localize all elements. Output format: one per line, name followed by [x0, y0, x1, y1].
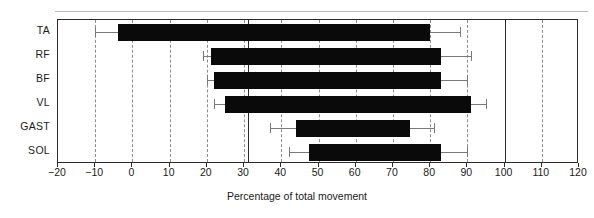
error-bar-end: [471, 104, 486, 105]
x-tick-label-110: 110: [521, 166, 561, 178]
gridline-50: [319, 20, 320, 162]
error-cap-start: [289, 147, 290, 157]
x-tick-mark-110: [541, 163, 542, 167]
bar-vl: [225, 96, 471, 113]
bar-sol: [309, 144, 441, 161]
error-cap-end: [486, 99, 487, 109]
y-axis-label-bf: BF: [2, 72, 50, 84]
error-bar-start: [214, 104, 225, 105]
x-tick-label-30: 30: [223, 166, 263, 178]
gridline-90: [467, 20, 468, 162]
x-tick-label-10: 10: [149, 166, 189, 178]
x-tick-label-120: 120: [558, 166, 594, 178]
error-bar-start: [270, 128, 296, 129]
x-tick-mark-90: [466, 163, 467, 167]
error-bar-end: [441, 152, 467, 153]
x-tick-mark--10: [94, 163, 95, 167]
gridline-10: [170, 20, 171, 162]
x-tick-mark-80: [429, 163, 430, 167]
x-tick-label-20: 20: [186, 166, 226, 178]
bar-bf: [214, 72, 441, 89]
x-tick-mark-120: [578, 163, 579, 167]
x-tick-label-40: 40: [260, 166, 300, 178]
x-tick-label-80: 80: [409, 166, 449, 178]
y-axis-label-vl: VL: [2, 96, 50, 108]
x-tick-label-70: 70: [372, 166, 412, 178]
y-axis-label-rf: RF: [2, 48, 50, 60]
gridline-20: [207, 20, 208, 162]
x-tick-label-0: 0: [111, 166, 151, 178]
plot-area: [57, 19, 578, 163]
bar-chart: TARFBFVLGASTSOL −20−10010203040506070809…: [0, 0, 594, 218]
y-axis-label-sol: SOL: [2, 144, 50, 156]
gridline-30: [244, 20, 245, 162]
error-bar-start: [289, 152, 309, 153]
bar-gast: [296, 120, 410, 137]
error-cap-start: [207, 75, 208, 85]
reference-line-31: [248, 20, 249, 162]
error-cap-end: [467, 147, 468, 157]
error-cap-end: [460, 27, 461, 37]
error-bar-end: [410, 128, 434, 129]
gridline-0: [132, 20, 133, 162]
error-bar-start: [207, 80, 214, 81]
error-cap-start: [95, 27, 96, 37]
y-axis-label-gast: GAST: [2, 120, 50, 132]
error-cap-end: [471, 51, 472, 61]
x-tick-mark-10: [169, 163, 170, 167]
error-cap-start: [203, 51, 204, 61]
reference-line-100: [505, 20, 506, 162]
x-tick-label-50: 50: [298, 166, 338, 178]
x-tick-mark-30: [243, 163, 244, 167]
x-tick-mark-40: [280, 163, 281, 167]
x-tick-mark-70: [392, 163, 393, 167]
error-cap-start: [214, 99, 215, 109]
x-tick-mark--20: [57, 163, 58, 167]
x-tick-label--20: −20: [37, 166, 77, 178]
bar-ta: [118, 24, 431, 41]
error-bar-end: [430, 32, 460, 33]
gridline-40: [281, 20, 282, 162]
error-bar-start: [203, 56, 210, 57]
error-bar-end: [441, 56, 471, 57]
gridline--10: [95, 20, 96, 162]
bar-rf: [211, 48, 442, 65]
y-axis-label-ta: TA: [2, 24, 50, 36]
gridline-110: [542, 20, 543, 162]
x-tick-label--10: −10: [74, 166, 114, 178]
gridline-70: [393, 20, 394, 162]
x-tick-mark-60: [355, 163, 356, 167]
gridline-60: [356, 20, 357, 162]
x-tick-label-60: 60: [335, 166, 375, 178]
x-tick-label-90: 90: [446, 166, 486, 178]
x-axis-title: Percentage of total movement: [0, 190, 594, 202]
x-tick-mark-50: [318, 163, 319, 167]
error-bar-start: [95, 32, 117, 33]
error-bar-end: [441, 80, 467, 81]
error-cap-end: [467, 75, 468, 85]
x-tick-mark-0: [131, 163, 132, 167]
gridline-80: [430, 20, 431, 162]
x-tick-mark-100: [504, 163, 505, 167]
error-cap-start: [270, 123, 271, 133]
x-tick-mark-20: [206, 163, 207, 167]
error-cap-end: [434, 123, 435, 133]
x-tick-label-100: 100: [484, 166, 524, 178]
